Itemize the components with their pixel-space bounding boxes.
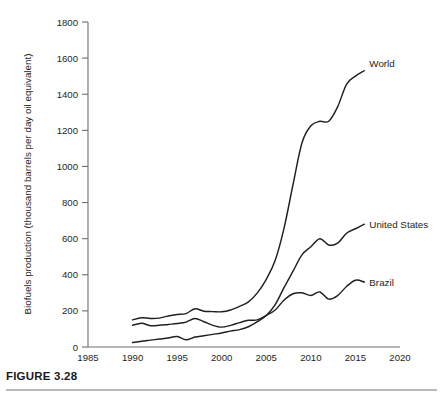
y-axis-title: Biofuels production (thousand barrels pe… [22, 54, 33, 315]
series-line-world [133, 71, 365, 320]
y-tick-label: 1000 [57, 161, 78, 172]
y-tick-label: 1400 [57, 89, 78, 100]
y-tick-label: 1200 [57, 125, 78, 136]
y-tick-label: 400 [62, 269, 78, 280]
caption-divider [6, 389, 437, 391]
x-tick-label: 2010 [300, 352, 321, 363]
x-tick-label: 2020 [389, 352, 410, 363]
y-tick-label: 800 [62, 197, 78, 208]
y-axis-ticks: 020040060080010001200140016001800 [57, 17, 88, 353]
series-label-united-states: United States [369, 219, 428, 230]
series-label-brazil: Brazil [369, 277, 394, 288]
x-tick-label: 2000 [211, 352, 232, 363]
chart-plot-area: 020040060080010001200140016001800 Biofue… [0, 0, 443, 368]
data-series-group [133, 71, 365, 343]
x-axis: 19851990199520002005201020152020 [77, 347, 410, 363]
x-tick-label: 1985 [77, 352, 98, 363]
y-tick-label: 1800 [57, 17, 78, 28]
figure-caption-block: FIGURE 3.28 [0, 368, 443, 395]
y-tick-label: 200 [62, 305, 78, 316]
figure-caption-label: FIGURE 3.28 [6, 370, 77, 382]
y-axis: 020040060080010001200140016001800 Biofue… [22, 17, 88, 353]
figure-container: 020040060080010001200140016001800 Biofue… [0, 0, 443, 395]
series-label-world: World [369, 58, 394, 69]
x-tick-label: 1990 [122, 352, 143, 363]
series-label-group: WorldUnited StatesBrazil [369, 58, 428, 288]
y-tick-label: 1600 [57, 53, 78, 64]
y-tick-label: 0 [73, 342, 78, 353]
y-tick-label: 600 [62, 233, 78, 244]
x-tick-label: 2005 [256, 352, 277, 363]
x-tick-label: 1995 [166, 352, 187, 363]
series-line-brazil [133, 280, 365, 327]
x-axis-ticks: 19851990199520002005201020152020 [77, 352, 410, 363]
biofuels-production-line-chart: 020040060080010001200140016001800 Biofue… [0, 0, 443, 368]
x-tick-label: 2015 [345, 352, 366, 363]
